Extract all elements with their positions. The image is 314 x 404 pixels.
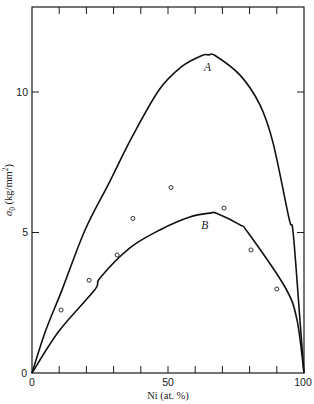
x-axis-ticks [59, 7, 277, 373]
curve-b-line [32, 212, 304, 373]
y-axis-title-units: (kg/mm [3, 171, 15, 207]
x-axis-title: Ni (at. %) [147, 390, 189, 402]
y-axis-title: σ0 (kg/mm2) [1, 163, 17, 216]
y-tick-label-5: 5 [22, 226, 28, 238]
plot-frame [32, 7, 304, 373]
x-tick-label-0: 0 [29, 376, 35, 388]
data-point-marker [249, 248, 253, 252]
x-tick-label-100: 100 [294, 376, 312, 388]
strength-vs-nickel-chart: 0 50 100 0 5 10 Ni (at. %) σ0 (kg/mm2) A… [0, 0, 314, 404]
curve-a-line [32, 54, 304, 373]
data-point-marker [131, 216, 135, 220]
curve-b-label: B [201, 219, 208, 231]
data-point-marker [59, 308, 63, 312]
data-point-marker [275, 287, 279, 291]
y-tick-label-10: 10 [16, 86, 28, 98]
curve-a-label: A [203, 61, 212, 73]
x-axis-tick-labels: 0 50 100 [29, 376, 312, 388]
data-point-marker [87, 278, 91, 282]
y-axis-tick-labels: 0 5 10 [16, 86, 28, 379]
data-point-marker [169, 186, 173, 190]
y-axis-title-close: ) [3, 163, 15, 167]
y-tick-label-0: 0 [21, 367, 27, 379]
x-tick-label-50: 50 [162, 376, 174, 388]
data-point-marker [222, 206, 226, 210]
data-point-marker [115, 253, 119, 257]
